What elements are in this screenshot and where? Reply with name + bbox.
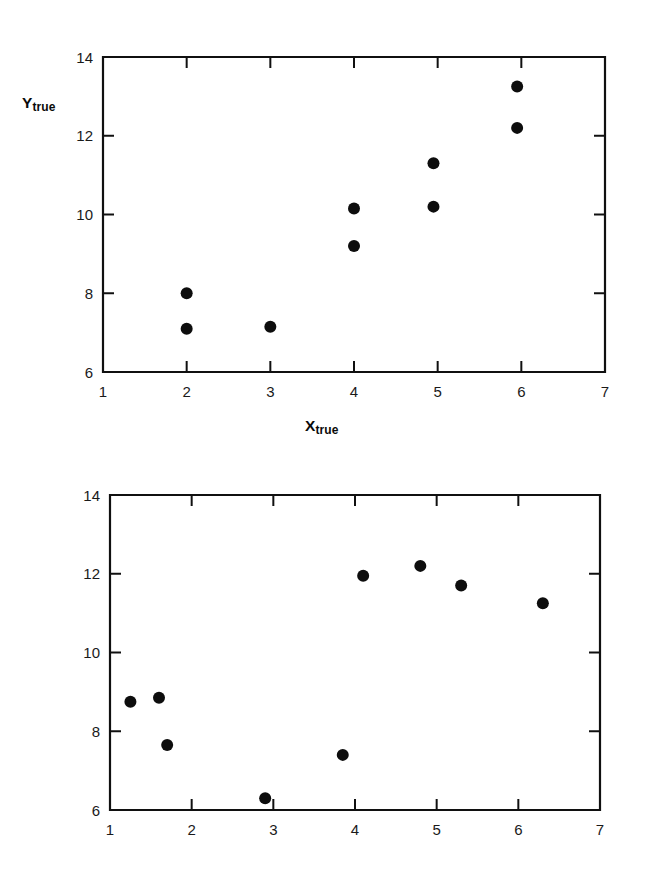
y-tick-label-6: 6 — [92, 802, 100, 819]
x-tick-label-1: 1 — [99, 383, 107, 400]
data-point — [511, 81, 523, 93]
y-tick-label-12: 12 — [76, 127, 93, 144]
x-tick-label-5: 5 — [432, 821, 440, 838]
data-point — [511, 122, 523, 134]
data-point — [124, 696, 136, 708]
two-panel-scatter-figure: 123456768101214 Ytrue Xtrue 123456768101… — [0, 0, 660, 896]
y-tick-label-8: 8 — [92, 723, 100, 740]
data-point — [264, 321, 276, 333]
x-tick-label-5: 5 — [433, 383, 441, 400]
data-point — [348, 203, 360, 215]
y-tick-label-14: 14 — [83, 487, 100, 504]
x-tick-label-4: 4 — [351, 821, 359, 838]
x-tick-label-1: 1 — [106, 821, 114, 838]
x-tick-label-6: 6 — [517, 383, 525, 400]
data-point — [259, 792, 271, 804]
x-tick-label-4: 4 — [350, 383, 358, 400]
y-tick-label-12: 12 — [83, 565, 100, 582]
x-axis-title-true: Xtrue — [305, 417, 339, 435]
x-tick-label-7: 7 — [596, 821, 604, 838]
data-point — [181, 323, 193, 335]
y-tick-label-6: 6 — [85, 364, 93, 381]
data-point — [427, 157, 439, 169]
y-axis-title-true: Ytrue — [22, 94, 56, 112]
data-point — [455, 580, 467, 592]
plot-frame — [110, 495, 600, 810]
scatter-plot-error: 123456768101214 — [0, 450, 660, 896]
x-tick-label-2: 2 — [182, 383, 190, 400]
x-tick-label-3: 3 — [269, 821, 277, 838]
x-axis-title-true-main: X — [305, 417, 315, 434]
data-point — [161, 739, 173, 751]
x-axis-title-true-sub: true — [315, 423, 338, 437]
data-point — [414, 560, 426, 572]
data-point — [357, 570, 369, 582]
panel-x-error-y-error: 123456768101214 Yerror Xerror — [0, 450, 660, 896]
x-tick-label-3: 3 — [266, 383, 274, 400]
data-point — [181, 287, 193, 299]
data-point — [427, 201, 439, 213]
panel-x-true-y-true: 123456768101214 Ytrue Xtrue — [0, 0, 660, 450]
data-point — [153, 692, 165, 704]
x-tick-label-7: 7 — [601, 383, 609, 400]
data-point — [337, 749, 349, 761]
data-point — [537, 597, 549, 609]
x-tick-label-2: 2 — [187, 821, 195, 838]
y-tick-label-14: 14 — [76, 49, 93, 66]
y-tick-label-10: 10 — [76, 206, 93, 223]
x-tick-label-6: 6 — [514, 821, 522, 838]
data-point — [348, 240, 360, 252]
y-tick-label-10: 10 — [83, 644, 100, 661]
y-axis-title-true-sub: true — [32, 100, 55, 114]
y-axis-title-true-main: Y — [22, 94, 32, 111]
y-tick-label-8: 8 — [85, 285, 93, 302]
scatter-plot-true: 123456768101214 — [0, 0, 660, 450]
